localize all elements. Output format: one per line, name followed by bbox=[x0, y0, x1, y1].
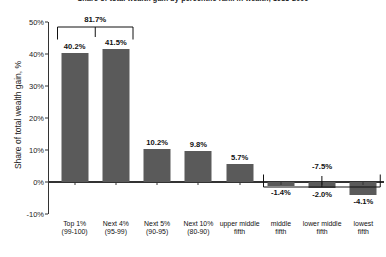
y-tick-mark bbox=[45, 182, 48, 183]
x-tick-mark bbox=[157, 182, 158, 185]
bar[interactable] bbox=[102, 49, 129, 182]
bar-value-label: 5.7% bbox=[231, 153, 248, 162]
bar-value-label: -2.0% bbox=[312, 190, 332, 199]
bar-value-label: -1.4% bbox=[271, 188, 291, 197]
bar-slot: 9.8% bbox=[178, 22, 219, 214]
y-tick-mark bbox=[45, 22, 48, 23]
y-tick-mark bbox=[45, 118, 48, 119]
y-tick-label: -10% bbox=[26, 210, 44, 219]
bar[interactable] bbox=[185, 151, 212, 182]
x-tick-mark bbox=[239, 182, 240, 185]
bar-value-label: 40.2% bbox=[64, 42, 86, 51]
x-tick-mark bbox=[198, 182, 199, 185]
x-category-label: lowestfifth bbox=[336, 220, 386, 237]
y-tick-mark bbox=[45, 86, 48, 87]
y-tick-label: 50% bbox=[29, 18, 44, 27]
bar-value-label: -4.1% bbox=[353, 197, 373, 206]
x-category-label-line2: fifth bbox=[336, 228, 386, 236]
x-tick-mark bbox=[115, 182, 116, 185]
bracket-top-annotation-line bbox=[57, 26, 134, 40]
wealth-gain-bar-chart: Share of total wealth gain by percentile… bbox=[0, 0, 386, 257]
y-tick-label: 30% bbox=[29, 82, 44, 91]
bar-slot: 5.7% bbox=[219, 22, 260, 214]
y-tick-mark bbox=[45, 54, 48, 55]
bar-value-label: 9.8% bbox=[190, 140, 207, 149]
bar-value-label: 10.2% bbox=[146, 138, 168, 147]
plot-area: 50%40%30%20%10%0%-10% 40.2%41.5%10.2%9.8… bbox=[48, 22, 384, 214]
y-tick-label: 40% bbox=[29, 50, 44, 59]
y-tick-mark bbox=[45, 214, 48, 215]
bar-slot: 10.2% bbox=[137, 22, 178, 214]
bracket-top-annotation-label: 81.7% bbox=[84, 15, 106, 24]
chart-title: Share of total wealth gain by percentile… bbox=[0, 0, 386, 3]
y-axis-line bbox=[48, 22, 49, 214]
bracket-bottom-annotation-label: -7.5% bbox=[312, 162, 332, 171]
y-tick-mark bbox=[45, 150, 48, 151]
y-tick-label: 10% bbox=[29, 146, 44, 155]
bar[interactable] bbox=[144, 149, 171, 182]
bar[interactable] bbox=[226, 164, 253, 182]
y-tick-label: 0% bbox=[33, 178, 44, 187]
y-axis-title: Share of total wealth gain, % bbox=[13, 35, 23, 195]
bar-slot: 40.2% bbox=[54, 22, 95, 214]
x-tick-mark bbox=[74, 182, 75, 185]
bar-slot: 41.5% bbox=[95, 22, 136, 214]
bar[interactable] bbox=[61, 53, 88, 182]
y-tick-label: 20% bbox=[29, 114, 44, 123]
x-category-label-line1: lowest bbox=[336, 220, 386, 228]
bracket-bottom-annotation-line bbox=[263, 174, 381, 188]
